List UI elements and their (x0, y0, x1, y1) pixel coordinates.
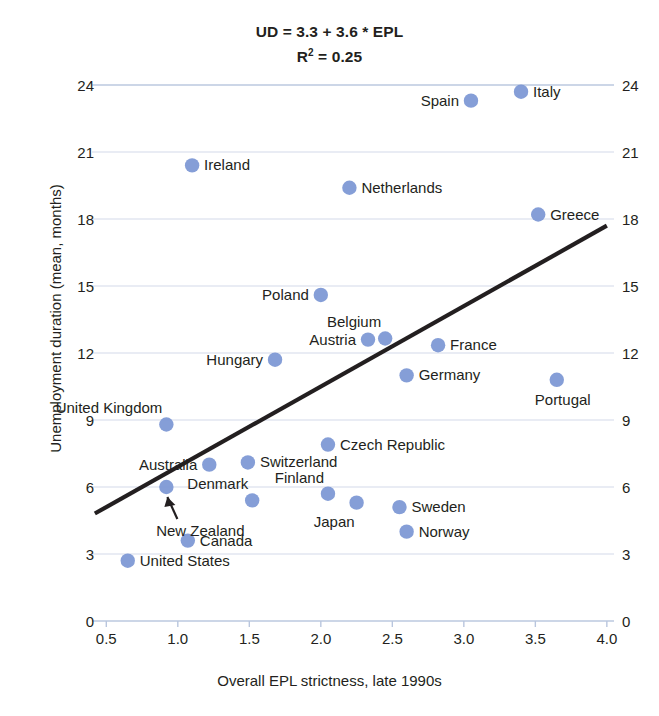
point-label: Belgium (327, 314, 381, 329)
point-label: Portugal (535, 392, 591, 407)
data-point[interactable] (241, 455, 255, 469)
data-point[interactable] (349, 495, 363, 509)
data-point[interactable] (342, 181, 356, 195)
x-axis-tick: 2.5 (367, 631, 417, 646)
data-point[interactable] (314, 288, 328, 302)
point-label: Denmark (187, 476, 248, 491)
point-label: Italy (533, 84, 561, 99)
point-label: Switzerland (260, 454, 338, 469)
data-point[interactable] (321, 487, 335, 501)
point-label: Hungary (206, 352, 263, 367)
y-axis-tick-right: 18 (622, 212, 659, 227)
y-axis-tick-left: 21 (34, 145, 94, 160)
x-axis-tick: 1.5 (224, 631, 274, 646)
data-point[interactable] (514, 85, 528, 99)
y-axis-tick-right: 3 (622, 547, 659, 562)
y-axis-tick-right: 12 (622, 346, 659, 361)
point-label: Finland (275, 470, 324, 485)
point-label: Sweden (411, 499, 465, 514)
y-axis-tick-right: 21 (622, 145, 659, 160)
data-point[interactable] (392, 500, 406, 514)
point-label: Spain (421, 93, 459, 108)
point-label: Austria (309, 332, 356, 347)
new-zealand-arrow-head (164, 497, 175, 507)
y-axis-tick-left: 24 (34, 78, 94, 93)
y-axis-tick-right: 15 (622, 279, 659, 294)
x-axis-tick: 1.0 (153, 631, 203, 646)
data-point[interactable] (245, 493, 259, 507)
data-point[interactable] (399, 368, 413, 382)
y-axis-tick-right: 6 (622, 480, 659, 495)
y-axis-tick-left: 0 (34, 614, 94, 629)
x-axis-tick: 3.0 (439, 631, 489, 646)
point-label: United States (140, 553, 230, 568)
y-axis-tick-right: 9 (622, 413, 659, 428)
data-point[interactable] (464, 93, 478, 107)
y-axis-tick-left: 3 (34, 547, 94, 562)
plot-area (0, 0, 659, 716)
data-point[interactable] (531, 207, 545, 221)
point-label: Czech Republic (340, 437, 445, 452)
x-axis-tick: 3.5 (510, 631, 560, 646)
y-axis-tick-right: 0 (622, 614, 659, 629)
x-axis-tick: 0.5 (81, 631, 131, 646)
point-label: Germany (419, 367, 481, 382)
data-point[interactable] (361, 332, 375, 346)
data-point[interactable] (159, 417, 173, 431)
data-point[interactable] (268, 353, 282, 367)
data-point[interactable] (378, 331, 392, 345)
point-label: Japan (314, 514, 355, 529)
data-point[interactable] (431, 338, 445, 352)
data-point[interactable] (321, 437, 335, 451)
data-point[interactable] (159, 480, 173, 494)
scatter-chart: UD = 3.3 + 3.6 * EPL R2 = 0.25 Unemploym… (0, 0, 659, 716)
point-label: France (450, 337, 497, 352)
data-point[interactable] (121, 554, 135, 568)
y-axis-tick-left: 6 (34, 480, 94, 495)
data-point[interactable] (550, 373, 564, 387)
point-label: Greece (550, 207, 599, 222)
x-axis-tick: 2.0 (296, 631, 346, 646)
point-label: Norway (419, 524, 470, 539)
point-label: United Kingdom (56, 400, 163, 415)
point-label: Poland (262, 287, 309, 302)
y-axis-tick-right: 24 (622, 78, 659, 93)
data-point[interactable] (399, 524, 413, 538)
point-label: Canada (200, 533, 253, 548)
x-axis-tick: 4.0 (582, 631, 632, 646)
y-axis-tick-left: 18 (34, 212, 94, 227)
y-axis-tick-left: 15 (34, 279, 94, 294)
data-point[interactable] (185, 158, 199, 172)
point-label: Netherlands (361, 180, 442, 195)
data-point[interactable] (202, 457, 216, 471)
point-label: Australia (139, 457, 197, 472)
point-label: Ireland (204, 157, 250, 172)
y-axis-tick-left: 12 (34, 346, 94, 361)
